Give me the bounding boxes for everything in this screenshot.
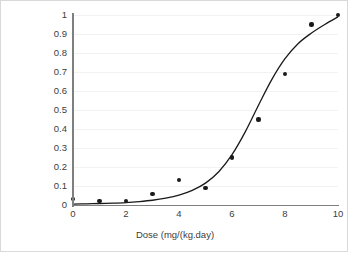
x-axis-tick-label: 4 [164, 208, 194, 220]
dose-response-chart: Response (fraction dead) 00.10.20.30.40.… [0, 0, 348, 252]
y-axis-tick-label: 0.1 [41, 181, 67, 191]
y-axis-tick-label: 0.5 [41, 105, 67, 115]
x-axis-tick-labels: 0246810 [73, 208, 338, 224]
data-point [150, 192, 154, 196]
data-point [283, 72, 287, 76]
x-axis-tick-label: 10 [323, 208, 350, 220]
data-point [309, 22, 313, 26]
x-axis-tick-label: 2 [111, 208, 141, 220]
x-axis-tick-label: 0 [58, 208, 88, 220]
x-axis-title: Dose (mg/(kg.day) [1, 229, 349, 240]
y-axis-tick-label: 0.8 [41, 48, 67, 58]
data-point [256, 117, 260, 121]
data-point [336, 13, 340, 17]
fitted-curve [73, 15, 338, 205]
y-axis-tick-label: 0.6 [41, 86, 67, 96]
plot-area [73, 15, 338, 205]
y-axis-tick-label: 0.7 [41, 67, 67, 77]
x-axis-tick-label: 6 [217, 208, 247, 220]
data-point [230, 155, 234, 159]
y-axis-tick-label: 0.4 [41, 124, 67, 134]
x-axis-line [73, 205, 339, 206]
y-axis-tick-label: 1 [41, 10, 67, 20]
y-axis-line [72, 13, 74, 207]
x-axis-tick-label: 8 [270, 208, 300, 220]
data-point [97, 199, 101, 203]
data-point [203, 186, 207, 190]
y-axis-tick-label: 0.9 [41, 29, 67, 39]
y-axis-tick-label: 0.3 [41, 143, 67, 153]
y-axis-tick-label: 0.2 [41, 162, 67, 172]
